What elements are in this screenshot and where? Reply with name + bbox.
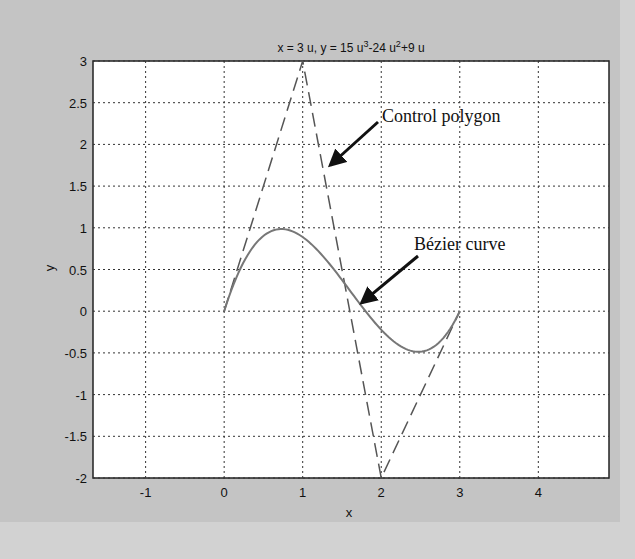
- x-tick-label: 2: [378, 485, 385, 500]
- x-tick-label: -1: [140, 485, 152, 500]
- y-tick-label: -1.5: [65, 429, 87, 444]
- y-tick-label: -0.5: [65, 346, 87, 361]
- figure-panel: x = 3 u, y = 15 u3-24 u2+9 u -10123432.5…: [0, 0, 620, 522]
- y-axis-label: y: [42, 264, 57, 271]
- y-tick-label: 2: [80, 137, 87, 152]
- y-tick-label: -1: [75, 388, 87, 403]
- x-tick-label: 3: [456, 485, 463, 500]
- chart: x = 3 u, y = 15 u3-24 u2+9 u -10123432.5…: [0, 0, 635, 559]
- annotation-bezier-curve: Bézier curve: [414, 234, 505, 254]
- y-tick-label: 1.5: [69, 179, 87, 194]
- y-tick-label: 0: [80, 304, 87, 319]
- x-tick-label: 1: [299, 485, 306, 500]
- chart-title: x = 3 u, y = 15 u3-24 u2+9 u: [277, 39, 424, 55]
- x-axis-label: x: [346, 505, 353, 520]
- x-tick-label: 0: [221, 485, 228, 500]
- y-tick-label: 3: [80, 54, 87, 69]
- plot-area: [93, 61, 609, 478]
- y-tick-label: -2: [75, 471, 87, 486]
- x-tick-label: 4: [535, 485, 542, 500]
- y-tick-label: 0.5: [69, 263, 87, 278]
- y-tick-label: 2.5: [69, 96, 87, 111]
- y-tick-label: 1: [80, 221, 87, 236]
- annotation-control-polygon: Control polygon: [382, 106, 501, 126]
